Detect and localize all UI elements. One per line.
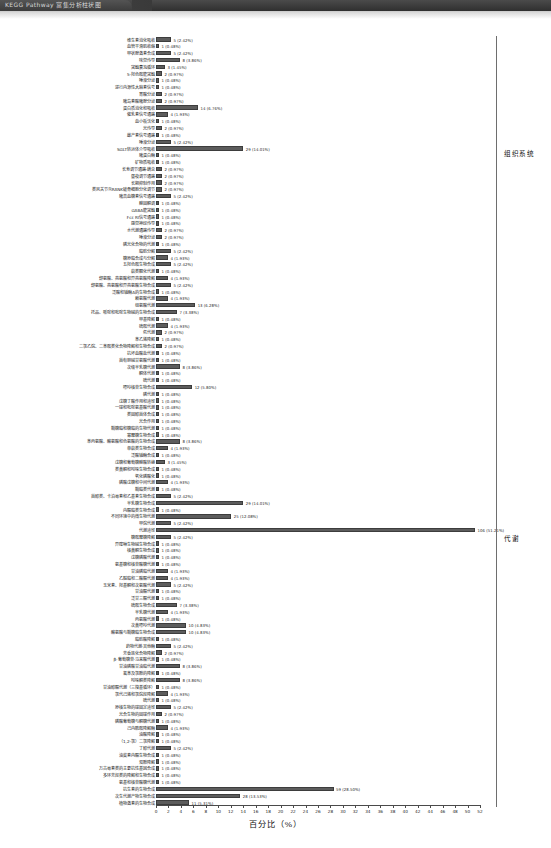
bar-value-label: 1 (0.48%) [161, 412, 180, 417]
x-axis-tick-label: 18 [265, 809, 270, 814]
bar [156, 126, 162, 130]
bar [156, 228, 162, 232]
bar [156, 140, 171, 144]
bar-value-label: 5 (2.42%) [174, 282, 193, 287]
bar-value-label: 2 (0.97%) [165, 92, 184, 97]
bar-category-label: 油菜素内酯生物合成 [119, 752, 155, 757]
bar [156, 678, 180, 682]
bar [156, 303, 195, 307]
bar-row: 缬氨酸、亮氨酸和异亮氨酸生物合成5 (2.42%) [0, 282, 551, 287]
bar [156, 426, 159, 430]
x-axis-tick-label: 4 [180, 809, 183, 814]
bar-category-label: 异喹啉生物碱生物合成 [115, 541, 155, 546]
bar-row: 甾有胆碱甘氨酸代谢1 (0.48%) [0, 357, 551, 362]
x-axis-tick-label: 36 [378, 809, 383, 814]
bar-value-label: 8 (3.86%) [183, 57, 202, 62]
bar-value-label: 1 (0.48%) [161, 316, 180, 321]
bar [156, 623, 186, 627]
bar [156, 44, 159, 48]
bar-row: 脂肪酸降解1 (0.48%) [0, 637, 551, 642]
bar-category-label: 硫胺代谢 [139, 323, 155, 328]
bar-row: 二氯乙烷、二苯胺类化合物降解和生物合成2 (0.97%) [0, 344, 551, 349]
bar-category-label: 苯丙氨酸、酪氨酸和色氨酸的生物合成 [87, 439, 155, 444]
window-title: KEGG Pathway 富集分析柱状图 [5, 0, 101, 10]
bar-category-label: 戊糖和葡萄糖醛酸转换 [115, 459, 155, 464]
bar-row: 油酸降解1 (0.48%) [0, 732, 551, 737]
bar-row: 组氨酸代谢13 (6.28%) [0, 303, 551, 308]
bar-row: 甲烷代谢5 (2.42%) [0, 521, 551, 526]
bar-row: 戊糖和葡萄糖醛酸转换3 (1.45%) [0, 459, 551, 464]
bar-row: 硫代谢1 (0.48%) [0, 698, 551, 703]
bar [156, 133, 159, 137]
bar-row: 抗生素的生物合成59 (28.50%) [0, 786, 551, 791]
bar [156, 289, 159, 293]
bar-value-label: 2 (0.97%) [165, 711, 184, 716]
bar [156, 787, 334, 791]
bar-category-label: 光合生物的固碳作用 [119, 711, 155, 716]
bar-category-label: 突触囊泡循环 [131, 64, 155, 69]
bar-row: 感觉神经传导1 (0.48%) [0, 221, 551, 226]
bar [156, 705, 171, 709]
x-axis-tick-label: 22 [290, 809, 295, 814]
bar-value-label: 2 (0.97%) [165, 344, 184, 349]
bar [156, 644, 171, 648]
bar-row: （1,2-氯）二氯降解1 (0.48%) [0, 739, 551, 744]
bar [156, 317, 159, 321]
bar-value-label: 1 (0.48%) [161, 350, 180, 355]
bar-value-label: 2 (0.97%) [165, 126, 184, 131]
x-axis-tick-label: 40 [403, 809, 408, 814]
bar-value-label: 1 (0.48%) [161, 391, 180, 396]
bar-row: 逆行内源性大麻素信号1 (0.48%) [0, 85, 551, 90]
bar-category-label: 甘油磷酸甘油脂代谢 [119, 664, 155, 669]
bar-row: 鞘脂类代谢1 (0.48%) [0, 487, 551, 492]
bar-category-label: 甾有胆碱甘氨酸代谢 [119, 357, 155, 362]
bar-category-label: 逆行内源性大麻素信号 [115, 85, 155, 90]
x-axis-tick-label: 30 [340, 809, 345, 814]
bar-category-label: 己内酰胺降解酶 [127, 725, 155, 730]
bar [156, 398, 159, 402]
bar-row: 原核生物的碳固定途径5 (2.42%) [0, 705, 551, 710]
bar-row: 味觉传导8 (3.86%) [0, 57, 551, 62]
bar [156, 432, 159, 436]
bar-category-label: 5-羟色胺能突触 [127, 71, 155, 76]
bar-category-label: 托品、哌啶和吡啶生物碱的生物合成 [91, 310, 155, 315]
bar-category-label: 原核生物的碳固定途径 [115, 705, 155, 710]
x-axis-tick-label: 20 [278, 809, 283, 814]
bar-category-label: 胃酸分泌 [139, 92, 155, 97]
bracket-organismal-systems [496, 36, 497, 269]
bar [156, 671, 159, 675]
bar [156, 194, 171, 198]
bar-row: 代谢途径106 (51.21%) [0, 528, 551, 533]
bar-category-label: 次级半乳糖代谢 [127, 364, 155, 369]
bar-category-label: 甘油磷脂代谢 [131, 568, 155, 573]
bar-row: 长期抑制作用2 (0.97%) [0, 180, 551, 185]
bar-row: 血管平滑肌收缩1 (0.48%) [0, 44, 551, 49]
bar [156, 255, 168, 259]
bar-row: 醛固酮调1 (0.48%) [0, 201, 551, 206]
bar-value-label: 1 (0.48%) [161, 759, 180, 764]
titlebar-tab[interactable]: KEGG Pathway 富集分析柱状图 [0, 0, 132, 11]
bar-row: 抗坏血酸盐代谢1 (0.48%) [0, 350, 551, 355]
bar [156, 262, 171, 266]
bar-category-label: 乙醚脂和二酸酯代谢 [119, 575, 155, 580]
bar [156, 330, 162, 334]
bar-value-label: 1 (0.48%) [161, 473, 180, 478]
bar [156, 712, 162, 716]
bar-category-label: 抗坏血酸盐代谢 [127, 350, 155, 355]
bar-row: 胰岛素酸胰腺分泌2 (0.97%) [0, 98, 551, 103]
bar-row: 类黄酮和吲哚生物合成1 (0.48%) [0, 466, 551, 471]
bar [156, 719, 159, 723]
bar-row: 苯丙氨酸、酪氨酸和色氨酸的生物合成8 (3.86%) [0, 439, 551, 444]
bar-category-label: 芳香族化合物降解 [123, 650, 155, 655]
bar-row: 半乳糖生物合成29 (14.01%) [0, 500, 551, 505]
bar-value-label: 3 (1.45%) [168, 459, 187, 464]
bar-value-label: 1 (0.48%) [161, 596, 180, 601]
bar-category-label: 半乳糖代谢 [135, 609, 155, 614]
bar-row: 双酚降解1 (0.48%) [0, 759, 551, 764]
bar-value-label: 1 (0.48%) [161, 269, 180, 274]
bar-category-label: 蛋白质消化和吸收 [123, 105, 155, 110]
bar-row: 磷光化合物的代谢1 (0.48%) [0, 241, 551, 246]
x-axis-tick-label: 26 [315, 809, 320, 814]
x-axis-tick-label: 14 [241, 809, 246, 814]
bar-value-label: 7 (3.38%) [180, 602, 199, 607]
